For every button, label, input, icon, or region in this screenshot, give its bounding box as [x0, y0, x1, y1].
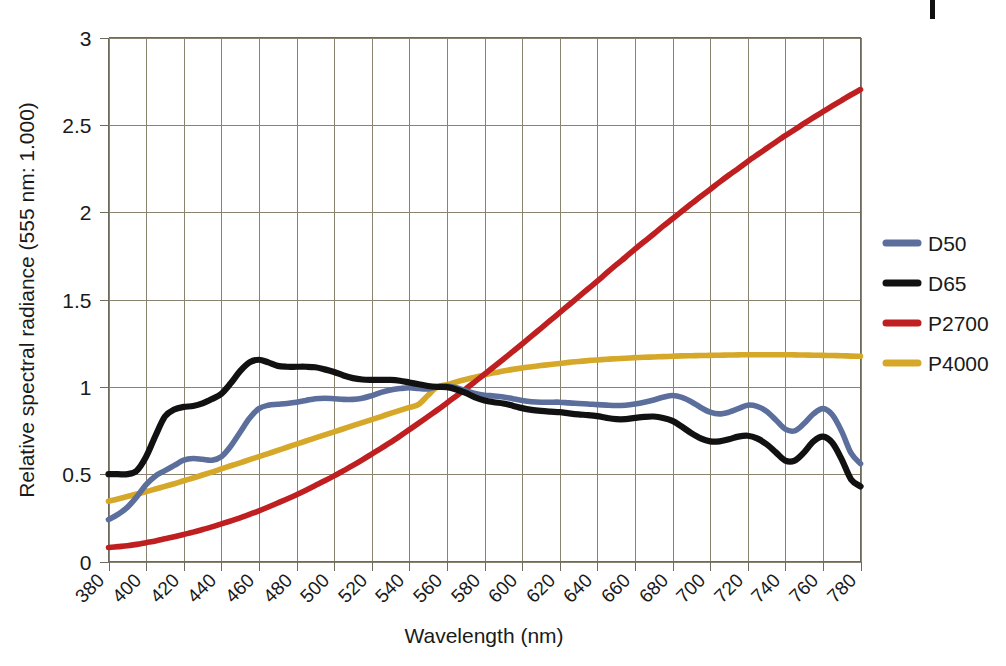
- registration-mark-icon: [930, 0, 935, 19]
- chart-background: [0, 0, 1006, 666]
- y-axis-title: Relative spectral radiance (555 nm: 1.00…: [15, 102, 38, 498]
- y-tick-label: 0.5: [62, 463, 91, 486]
- y-tick-label: 3: [80, 27, 92, 50]
- legend-label-d50[interactable]: D50: [928, 232, 967, 255]
- chart-canvas: 00.511.522.53 38040042044046048050052054…: [0, 0, 1006, 666]
- x-axis-ticks: [110, 562, 862, 571]
- y-tick-label: 1.5: [62, 289, 91, 312]
- spectral-radiance-chart-figure: 00.511.522.53 38040042044046048050052054…: [0, 0, 1006, 666]
- y-tick-label: 2: [80, 201, 92, 224]
- legend-label-p4000[interactable]: P4000: [928, 352, 989, 375]
- legend-label-d65[interactable]: D65: [928, 272, 967, 295]
- legend-label-p2700[interactable]: P2700: [928, 312, 989, 335]
- y-tick-label: 1: [80, 376, 92, 399]
- y-tick-label: 2.5: [62, 114, 91, 137]
- y-tick-label: 0: [80, 551, 92, 574]
- x-axis-title: Wavelength (nm): [404, 624, 563, 647]
